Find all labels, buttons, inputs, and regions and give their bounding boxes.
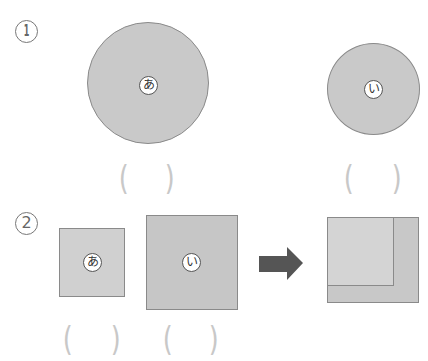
overlay-small-square (327, 217, 394, 286)
answer-1a-open-paren: ( (119, 162, 129, 194)
answer-1b-open-paren: ( (344, 162, 354, 194)
right-arrow-icon (255, 244, 307, 284)
answer-1a-close-paren: ) (165, 162, 175, 194)
square-i-label: い (182, 253, 201, 272)
answer-2b-close-paren: ) (209, 323, 219, 355)
circle-a-label-text: あ (143, 78, 155, 92)
square-a-label-text: あ (87, 255, 99, 269)
problem-2-number: 2 (15, 212, 38, 235)
problem-1-number: 1 (15, 20, 38, 43)
answer-1b-close-paren: ) (392, 162, 402, 194)
answer-2a-open-paren: ( (63, 323, 73, 355)
problem-1-number-text: 1 (24, 21, 30, 41)
problem-2-number-text: 2 (21, 213, 31, 232)
answer-2a-close-paren: ) (111, 323, 121, 355)
circle-i-label: い (364, 80, 383, 99)
answer-2b-open-paren: ( (163, 323, 173, 355)
circle-a-label: あ (139, 76, 158, 95)
square-a-label: あ (83, 253, 102, 272)
square-i-label-text: い (186, 255, 198, 269)
circle-i-label-text: い (368, 82, 380, 96)
